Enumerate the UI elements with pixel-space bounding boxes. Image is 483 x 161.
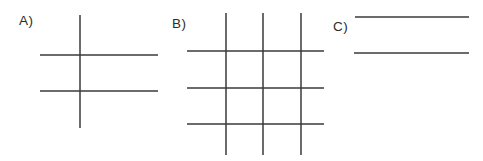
line-figure: A) B) C) bbox=[0, 0, 483, 161]
panel-b-label: B) bbox=[172, 17, 187, 31]
panel-c-label: C) bbox=[333, 20, 348, 34]
figure-canvas bbox=[0, 0, 483, 161]
panel-a-label: A) bbox=[19, 14, 34, 28]
